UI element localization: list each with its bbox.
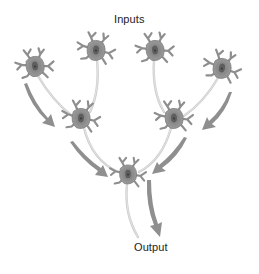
- arrow-left-lower-icon: [70, 141, 108, 177]
- output-label: Output: [134, 241, 168, 253]
- neurons: [14, 31, 244, 186]
- neuron-network-diagram: [0, 0, 259, 274]
- arrow-output-icon: [147, 180, 162, 237]
- neuron-input-4: [201, 48, 244, 84]
- neuron-input-3: [135, 31, 175, 64]
- inputs-label: Inputs: [114, 13, 145, 25]
- axon-input-1: [38, 76, 72, 116]
- neuron-input-1: [14, 47, 56, 82]
- neuron-hidden-1: [61, 100, 101, 132]
- arrow-left-upper-icon: [24, 83, 55, 127]
- arrow-right-upper-icon: [202, 92, 232, 130]
- axon-input-4: [184, 78, 218, 116]
- axon-hidden-1: [84, 128, 118, 172]
- axon-hidden-2: [139, 128, 171, 172]
- neuron-input-2: [76, 31, 116, 64]
